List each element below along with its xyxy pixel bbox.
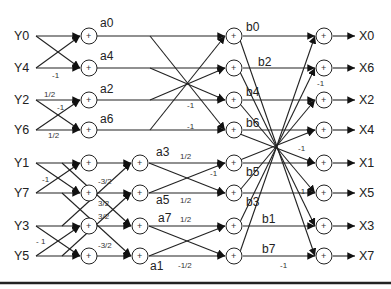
output-label: X4 <box>359 124 374 136</box>
node-label-a5: a5 <box>156 194 169 206</box>
node-label-b4: b4 <box>246 86 259 98</box>
weight-label: 1/2 <box>180 153 191 161</box>
weight-label: -1/2 <box>178 262 192 270</box>
output-label: X5 <box>359 187 374 199</box>
weight-label: 1/2 <box>180 197 191 205</box>
node-label-b6: b6 <box>246 117 259 129</box>
adder-plus: + <box>321 126 326 134</box>
node-label-a4: a4 <box>100 50 113 62</box>
weight-label: -1 <box>57 104 64 112</box>
weight-label: -1 <box>298 145 305 153</box>
node-label-b1: b1 <box>262 213 275 225</box>
adder-plus: + <box>86 159 91 167</box>
adder-plus: + <box>231 96 236 104</box>
adder-plus: + <box>321 252 326 260</box>
adder-plus: + <box>231 126 236 134</box>
adder-plus: + <box>231 189 236 197</box>
adder-plus: + <box>231 64 236 72</box>
adder-plus: + <box>137 159 142 167</box>
weight-label: 1/2 <box>44 91 55 99</box>
adder-plus: + <box>231 32 236 40</box>
adder-plus: + <box>86 222 91 230</box>
input-label: Y5 <box>14 250 29 262</box>
weight-label: 1/2 <box>180 216 191 224</box>
weight-label: -1 <box>187 102 194 110</box>
adder-plus: + <box>86 252 91 260</box>
adder-plus: + <box>137 222 142 230</box>
weight-label: -1 <box>210 170 217 178</box>
input-label: Y6 <box>14 124 29 136</box>
input-label: Y3 <box>14 220 29 232</box>
adder-plus: + <box>137 189 142 197</box>
input-label: Y2 <box>14 94 29 106</box>
input-label: Y7 <box>14 187 29 199</box>
adder-plus: + <box>321 222 326 230</box>
adder-plus: + <box>86 32 91 40</box>
node-label-a2: a2 <box>100 83 113 95</box>
adder-plus: + <box>86 126 91 134</box>
weight-label: -3/2 <box>98 242 112 250</box>
adder-plus: + <box>86 96 91 104</box>
node-label-a3: a3 <box>156 146 169 158</box>
output-label: X2 <box>359 94 374 106</box>
node-label-b3: b3 <box>246 196 259 208</box>
weight-label: 1/2 <box>48 132 59 140</box>
butterfly-diagram: + + + + + + + + + + + + + + + + + + + + … <box>0 0 391 289</box>
input-label: Y1 <box>14 157 29 169</box>
output-label: X7 <box>359 250 374 262</box>
weight-label: -1 <box>298 188 305 196</box>
node-label-a6: a6 <box>100 113 113 125</box>
node-label-a7: a7 <box>158 212 171 224</box>
weight-label: -1 <box>52 72 59 80</box>
adder-plus: + <box>321 32 326 40</box>
weight-label: -1 <box>317 80 324 88</box>
node-label-b2: b2 <box>258 56 271 68</box>
weight-label: - 1 <box>36 238 45 246</box>
weight-label: 3/2 <box>98 213 109 221</box>
adder-plus: + <box>231 252 236 260</box>
node-label-a0: a0 <box>100 17 113 29</box>
weight-label: -3/2 <box>98 178 112 186</box>
output-label: X1 <box>359 157 374 169</box>
adder-plus: + <box>86 64 91 72</box>
adder-plus: + <box>321 189 326 197</box>
weight-label: -1 <box>42 176 49 184</box>
node-label-b0: b0 <box>246 21 259 33</box>
flow-graph-lines <box>0 0 391 289</box>
adder-plus: + <box>321 96 326 104</box>
input-label: Y0 <box>14 30 29 42</box>
adder-plus: + <box>321 159 326 167</box>
weight-label: 3/2 <box>98 200 109 208</box>
node-label-a1: a1 <box>150 260 163 272</box>
weight-label: -1 <box>280 262 287 270</box>
adder-plus: + <box>137 252 142 260</box>
output-label: X6 <box>359 62 374 74</box>
adder-plus: + <box>86 189 91 197</box>
adder-plus: + <box>321 64 326 72</box>
output-label: X0 <box>359 30 374 42</box>
node-label-b7: b7 <box>262 243 275 255</box>
output-label: X3 <box>359 220 374 232</box>
adder-plus: + <box>231 222 236 230</box>
input-label: Y4 <box>14 62 29 74</box>
node-label-b5: b5 <box>246 166 259 178</box>
weight-label: -1 <box>187 123 194 131</box>
adder-plus: + <box>231 159 236 167</box>
